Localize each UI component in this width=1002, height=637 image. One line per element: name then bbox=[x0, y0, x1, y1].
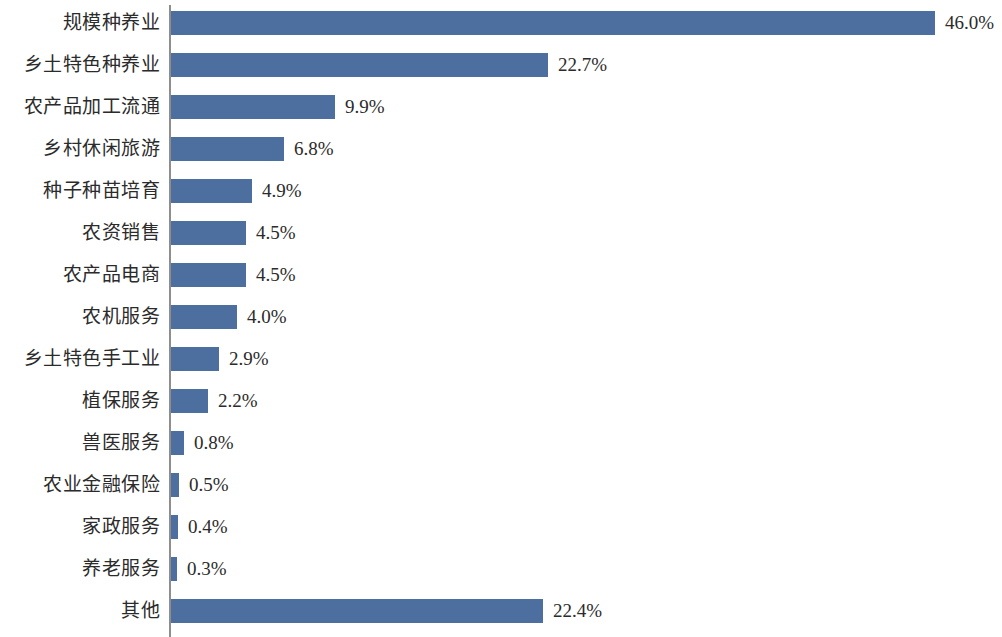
bar bbox=[171, 137, 284, 161]
bar bbox=[171, 599, 543, 623]
category-label: 种子种苗培育 bbox=[0, 170, 160, 212]
bar bbox=[171, 515, 178, 539]
category-label: 农产品加工流通 bbox=[0, 86, 160, 128]
bar bbox=[171, 305, 237, 329]
bar bbox=[171, 11, 935, 35]
bar-row: 植保服务2.2% bbox=[0, 380, 1002, 422]
value-label: 0.4% bbox=[188, 506, 228, 548]
value-label: 0.8% bbox=[194, 422, 234, 464]
value-label: 6.8% bbox=[294, 128, 334, 170]
bar-row: 种子种苗培育4.9% bbox=[0, 170, 1002, 212]
category-label: 养老服务 bbox=[0, 548, 160, 590]
bar-row: 规模种养业46.0% bbox=[0, 2, 1002, 44]
bar-row: 农资销售4.5% bbox=[0, 212, 1002, 254]
bar bbox=[171, 557, 177, 581]
value-label: 0.5% bbox=[189, 464, 229, 506]
bar bbox=[171, 53, 548, 77]
bar bbox=[171, 473, 179, 497]
category-label: 其他 bbox=[0, 590, 160, 632]
value-label: 2.9% bbox=[229, 338, 269, 380]
category-label: 乡村休闲旅游 bbox=[0, 128, 160, 170]
bar bbox=[171, 221, 246, 245]
bar bbox=[171, 431, 184, 455]
value-label: 22.7% bbox=[558, 44, 607, 86]
bar bbox=[171, 95, 335, 119]
category-label: 乡土特色种养业 bbox=[0, 44, 160, 86]
bar bbox=[171, 389, 208, 413]
category-label: 植保服务 bbox=[0, 380, 160, 422]
value-label: 4.5% bbox=[256, 254, 296, 296]
category-label: 农业金融保险 bbox=[0, 464, 160, 506]
bar bbox=[171, 263, 246, 287]
category-label: 规模种养业 bbox=[0, 2, 160, 44]
value-label: 9.9% bbox=[345, 86, 385, 128]
value-label: 4.9% bbox=[262, 170, 302, 212]
value-label: 2.2% bbox=[218, 380, 258, 422]
horizontal-bar-chart: 规模种养业46.0%乡土特色种养业22.7%农产品加工流通9.9%乡村休闲旅游6… bbox=[0, 0, 1002, 637]
category-label: 乡土特色手工业 bbox=[0, 338, 160, 380]
category-label: 家政服务 bbox=[0, 506, 160, 548]
bar-row: 乡土特色手工业2.9% bbox=[0, 338, 1002, 380]
bar-row: 农产品电商4.5% bbox=[0, 254, 1002, 296]
category-label: 兽医服务 bbox=[0, 422, 160, 464]
category-label: 农产品电商 bbox=[0, 254, 160, 296]
bar-rows-container: 规模种养业46.0%乡土特色种养业22.7%农产品加工流通9.9%乡村休闲旅游6… bbox=[0, 0, 1002, 637]
value-label: 0.3% bbox=[187, 548, 227, 590]
bar-row: 家政服务0.4% bbox=[0, 506, 1002, 548]
bar-row: 农产品加工流通9.9% bbox=[0, 86, 1002, 128]
bar-row: 农机服务4.0% bbox=[0, 296, 1002, 338]
category-label: 农资销售 bbox=[0, 212, 160, 254]
bar-row: 兽医服务0.8% bbox=[0, 422, 1002, 464]
bar-row: 养老服务0.3% bbox=[0, 548, 1002, 590]
category-label: 农机服务 bbox=[0, 296, 160, 338]
value-label: 4.0% bbox=[247, 296, 287, 338]
bar-row: 乡村休闲旅游6.8% bbox=[0, 128, 1002, 170]
bar-row: 其他22.4% bbox=[0, 590, 1002, 632]
bar bbox=[171, 347, 219, 371]
bar-row: 农业金融保险0.5% bbox=[0, 464, 1002, 506]
bar bbox=[171, 179, 252, 203]
value-label: 46.0% bbox=[945, 2, 994, 44]
bar-row: 乡土特色种养业22.7% bbox=[0, 44, 1002, 86]
value-label: 22.4% bbox=[553, 590, 602, 632]
value-label: 4.5% bbox=[256, 212, 296, 254]
